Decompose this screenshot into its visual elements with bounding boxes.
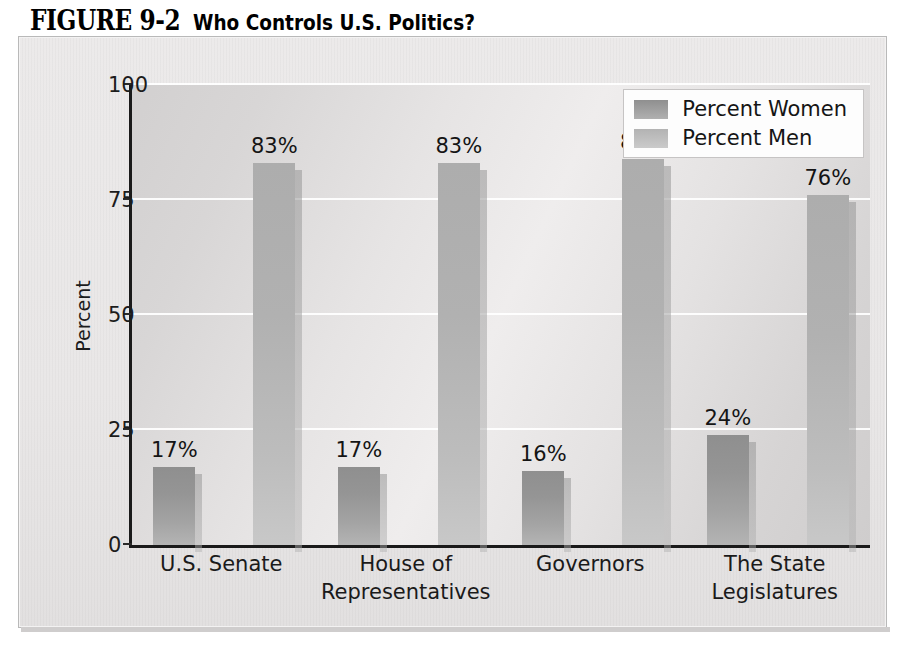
gridline [132, 428, 870, 430]
legend-swatch-men-icon [634, 129, 668, 148]
legend-swatch-women-icon [634, 100, 668, 119]
bar-body [622, 159, 664, 545]
x-axis-label-3: Governors [536, 551, 644, 579]
y-axis-tick-mark [123, 543, 132, 545]
bar-men-1[interactable]: 83% [253, 163, 295, 545]
legend-label-men: Percent Men [682, 126, 812, 150]
bar-value-label: 83% [251, 134, 298, 158]
bar-body [522, 471, 564, 545]
bar-side-face [295, 170, 302, 552]
bar-side-face [849, 202, 856, 552]
bar-value-label: 24% [704, 406, 751, 430]
bar-side-face [480, 170, 487, 552]
x-axis-labels-group: U.S. SenateHouse ofRepresentativesGovern… [129, 551, 867, 623]
bar-women-3[interactable]: 16% [522, 471, 564, 545]
bar-men-3[interactable]: 84% [622, 159, 664, 545]
chart-plot-wrapper: Percent 0255075100 17%83%17%83%16%84%24%… [129, 85, 868, 546]
x-axis-label-line: U.S. Senate [160, 551, 282, 579]
gridline [132, 313, 870, 315]
bar-body [707, 435, 749, 545]
x-axis-label-1: U.S. Senate [160, 551, 282, 579]
bar-side-face [749, 442, 756, 552]
figure-panel: Percent 0255075100 17%83%17%83%16%84%24%… [18, 36, 887, 628]
bar-value-label: 17% [335, 438, 382, 462]
bar-women-2[interactable]: 17% [338, 467, 380, 545]
bar-value-label: 76% [804, 166, 851, 190]
x-axis-label-line: Legislatures [711, 579, 838, 607]
legend-item-men[interactable]: Percent Men [634, 126, 847, 150]
bar-body [153, 467, 195, 545]
legend-label-women: Percent Women [682, 97, 847, 121]
y-axis-tick-label: 0 [108, 533, 112, 557]
gridline [132, 198, 870, 200]
bar-body [338, 467, 380, 545]
bar-men-4[interactable]: 76% [807, 195, 849, 545]
bar-women-4[interactable]: 24% [707, 435, 749, 545]
x-axis-label-4: The StateLegislatures [711, 551, 838, 606]
y-axis-tick-label: 25 [108, 418, 112, 442]
x-axis-label-line: House of [321, 551, 491, 579]
x-axis-label-line: Governors [536, 551, 644, 579]
bar-men-2[interactable]: 83% [438, 163, 480, 545]
y-axis-title: Percent [72, 280, 94, 352]
chart-legend: Percent Women Percent Men [623, 89, 864, 158]
legend-item-women[interactable]: Percent Women [634, 97, 847, 121]
x-axis-label-line: The State [711, 551, 838, 579]
x-axis-label-line: Representatives [321, 579, 491, 607]
gridline [132, 83, 870, 85]
bar-side-face [664, 166, 671, 552]
y-axis-tick-label: 75 [108, 188, 112, 212]
figure-caption: Who Controls U.S. Politics? [193, 13, 475, 34]
bar-body [807, 195, 849, 545]
y-axis-tick-label: 100 [108, 73, 112, 97]
x-axis-label-2: House ofRepresentatives [321, 551, 491, 606]
figure-number: FIGURE 9-2 [30, 7, 180, 34]
bar-body [253, 163, 295, 545]
bar-side-face [195, 474, 202, 552]
y-axis-tick-label: 50 [108, 303, 112, 327]
figure-title: FIGURE 9-2 Who Controls U.S. Politics? [30, 2, 513, 34]
chart-plot-area: 0255075100 17%83%17%83%16%84%24%76% Perc… [129, 85, 870, 548]
bar-side-face [564, 478, 571, 552]
bar-value-label: 16% [520, 442, 567, 466]
bar-body [438, 163, 480, 545]
bar-value-label: 17% [151, 438, 198, 462]
bar-women-1[interactable]: 17% [153, 467, 195, 545]
bar-side-face [380, 474, 387, 552]
bar-value-label: 83% [435, 134, 482, 158]
